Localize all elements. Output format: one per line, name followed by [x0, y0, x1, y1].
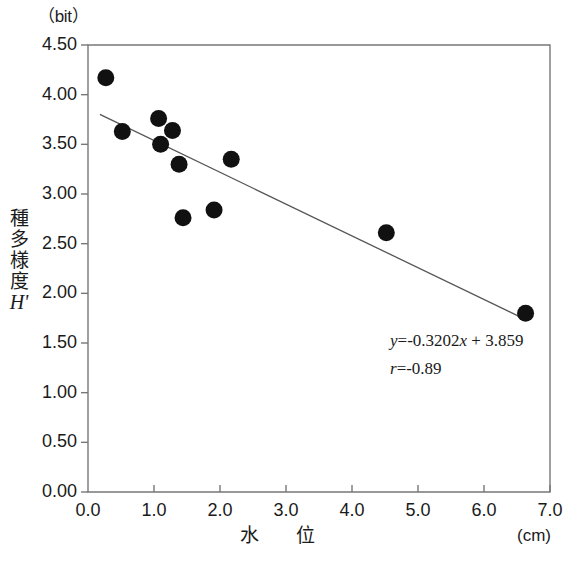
- x-axis-tick-label: 4.0: [332, 500, 372, 521]
- data-point: [171, 156, 188, 173]
- y-axis-tick-label: 3.00: [25, 183, 77, 204]
- plot-canvas: [0, 0, 577, 568]
- data-point: [114, 123, 131, 140]
- regression-equation-annotation: y=-0.3202x + 3.859: [390, 331, 523, 351]
- y-axis-ticks: [81, 45, 88, 492]
- equation-x-symbol: x: [460, 331, 468, 350]
- data-point: [223, 151, 240, 168]
- y-axis-tick-label: 3.50: [25, 133, 77, 154]
- data-point: [517, 305, 534, 322]
- y-axis-tick-label: 4.00: [25, 84, 77, 105]
- data-point: [378, 224, 395, 241]
- data-point: [97, 69, 114, 86]
- x-axis-tick-label: 1.0: [134, 500, 174, 521]
- x-axis-ticks: [154, 485, 550, 492]
- equation-body: =-0.3202: [398, 331, 460, 350]
- x-axis-tick-label: 5.0: [398, 500, 438, 521]
- x-axis-tick-label: 0.0: [68, 500, 108, 521]
- y-axis-tick-label: 2.00: [25, 282, 77, 303]
- data-points: [97, 69, 534, 321]
- x-axis-tick-label: 7.0: [530, 500, 570, 521]
- equation-tail: + 3.859: [467, 331, 523, 350]
- y-axis-tick-label: 4.50: [25, 34, 77, 55]
- data-point: [206, 201, 223, 218]
- data-point: [150, 110, 167, 127]
- data-point: [152, 136, 169, 153]
- data-point: [175, 209, 192, 226]
- equation-y-symbol: y: [390, 331, 398, 350]
- y-axis-tick-label: 1.50: [25, 332, 77, 353]
- y-axis-tick-label: 0.50: [25, 431, 77, 452]
- x-axis-tick-label: 3.0: [266, 500, 306, 521]
- correlation-annotation: r=-0.89: [390, 359, 442, 379]
- scatter-plot-figure: （bit） (cm) 種多様度 H' 水 位 0.000.501.001.502…: [0, 0, 577, 568]
- correlation-r-symbol: r: [390, 359, 397, 378]
- x-axis-tick-label: 6.0: [464, 500, 504, 521]
- y-axis-tick-label: 0.00: [25, 481, 77, 502]
- correlation-value: =-0.89: [397, 359, 442, 378]
- x-axis-tick-label: 2.0: [200, 500, 240, 521]
- y-axis-tick-label: 1.00: [25, 382, 77, 403]
- data-point: [164, 122, 181, 139]
- y-axis-tick-label: 2.50: [25, 233, 77, 254]
